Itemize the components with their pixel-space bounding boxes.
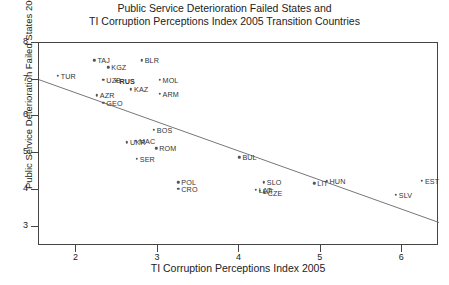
y-tick [31,115,38,116]
x-tick [75,245,76,252]
data-point-label: ROM [159,144,176,153]
x-tick [320,245,321,252]
chart-title-line-1: Public Service Deterioration Failed Stat… [0,2,449,15]
x-tick-label: 2 [67,252,83,262]
y-tick-label: 5 [14,146,28,156]
data-point-label: ARM [163,90,179,99]
y-axis-label: Public Service Deterioration Failed Stat… [23,0,34,210]
y-tick-label: 7 [14,73,28,83]
y-tick [31,189,38,190]
x-tick-label: 4 [230,252,246,262]
data-point-label: TUR [61,72,76,81]
data-point-label: BOS [157,126,172,135]
data-point-label: BUL [242,153,256,162]
data-point-label: MOL [163,76,179,85]
y-tick [31,226,38,227]
data-point-label: CZE [268,189,283,198]
data-point-label: TAJ [97,56,110,65]
x-tick-label: 5 [312,252,328,262]
regression-line [39,43,439,246]
data-point-label: BLR [145,56,159,65]
y-tick [31,152,38,153]
data-point-label: KGZ [111,63,126,72]
x-tick-label: 6 [393,252,409,262]
data-point-label: EST [425,177,439,186]
x-tick [401,245,402,252]
x-tick-label: 3 [149,252,165,262]
y-tick-label: 6 [14,109,28,119]
y-tick-label: 4 [14,183,28,193]
x-axis-label: TI Corruption Perceptions Index 2005 [38,262,438,274]
data-point-label: UKR [130,138,145,147]
data-point-label: SER [140,155,155,164]
data-point-label: KAZ [134,85,148,94]
y-tick-label: 8 [14,36,28,46]
data-point-label: SLV [399,191,412,200]
y-tick [31,79,38,80]
x-tick [238,245,239,252]
chart-title-line-2: TI Corruption Perceptions Index 2005 Tra… [0,15,449,28]
x-tick [157,245,158,252]
data-point-label: GEO [106,99,122,108]
plot-area: TURTAJKGZBLRUZBRUSMOLKAZARMAZRGEOBOSMACU… [38,42,438,245]
y-tick-label: 3 [14,220,28,230]
y-tick [31,42,38,43]
data-point-label: HUN [330,177,346,186]
chart-figure: Public Service Deterioration Failed Stat… [0,0,449,285]
data-point-label: CRO [181,185,197,194]
chart-title: Public Service Deterioration Failed Stat… [0,2,449,28]
data-point-label: RUS [119,77,134,86]
figure-caption [38,276,449,285]
